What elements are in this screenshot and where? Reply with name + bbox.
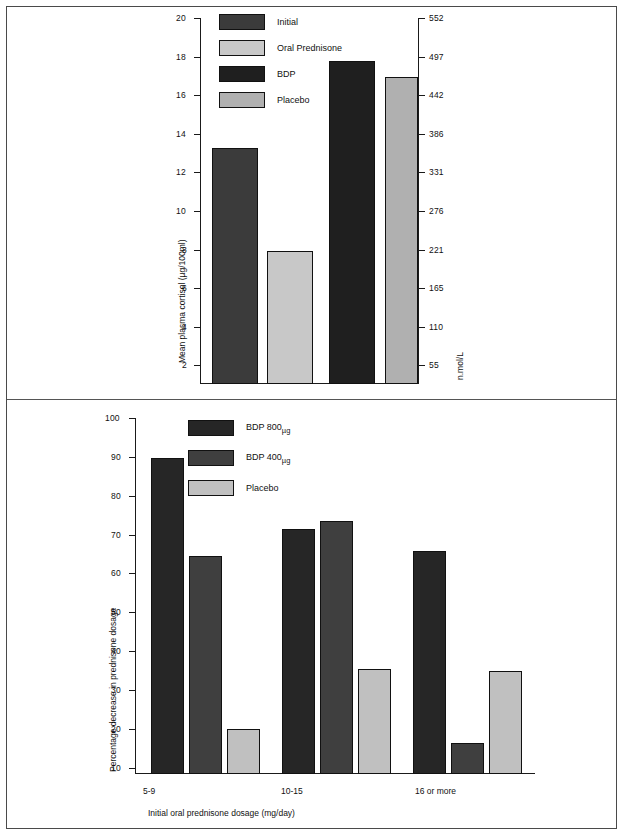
bottom-ticklabel-60: 60 [111,568,121,578]
bottom-x-axis-title: Initial oral prednisone dosage (mg/day) [148,808,295,818]
top-tick-2 [194,365,201,366]
legend-swatch-initial [219,14,265,30]
legend-label-initial: Initial [277,17,298,27]
legend-item-placebo: Placebo [219,92,310,108]
bottom-tick-100 [129,418,136,419]
figure-page: 20 18 16 14 12 10 8 6 4 2 552 497 442 38… [0,0,623,835]
legend-swatch-oral-prednisone [219,40,265,56]
bottom-tick-60 [129,573,136,574]
top-tick-4 [194,327,201,328]
top-right-ticklabel-442: 442 [429,90,444,100]
legend-label-oral-prednisone: Oral Prednisone [277,43,342,53]
top-right-tick-221 [418,250,425,251]
bar-top-oral-prednisone [267,251,313,384]
legend-label-placebo-bottom: Placebo [246,483,279,493]
bar-top-initial [212,148,258,385]
top-y-axis-title: Mean plasma cortisol (µg/100ml) [177,240,187,363]
top-right-ticklabel-55: 55 [429,360,439,370]
top-right-ticklabel-221: 221 [429,245,444,255]
top-left-axis [200,18,201,384]
top-ticklabel-12: 12 [176,167,186,177]
top-right-ticklabel-165: 165 [429,283,444,293]
top-tick-20 [194,18,201,19]
top-right-ticklabel-386: 386 [429,129,444,139]
legend-swatch-bdp-400 [188,450,234,466]
top-tick-10 [194,211,201,212]
legend-label-bdp-800: BDP 800µg [246,422,290,435]
legend-item-bdp-400: BDP 400µg [188,450,290,466]
top-y-axis-right-title: n.mol/L [455,352,465,380]
top-right-ticklabel-331: 331 [429,167,444,177]
legend-label-bdp-400-unit: µg [282,455,291,464]
bottom-tick-10 [129,768,136,769]
xtick-label-10-15: 10-15 [281,786,303,796]
bottom-tick-40 [129,651,136,652]
top-right-tick-55 [418,365,425,366]
bottom-ticklabel-90: 90 [111,452,121,462]
top-right-tick-165 [418,288,425,289]
legend-item-bdp: BDP [219,66,296,82]
legend-swatch-bdp-800 [188,420,234,436]
legend-label-bdp-800-text: BDP 800 [246,422,282,432]
bottom-tick-80 [129,496,136,497]
bar-g3-placebo [489,671,522,774]
bar-g2-bdp800 [282,529,315,775]
top-tick-14 [194,134,201,135]
panel-divider [7,399,616,400]
legend-item-placebo-bottom: Placebo [188,480,279,496]
top-right-ticklabel-497: 497 [429,52,444,62]
bar-g3-bdp400 [451,743,484,774]
legend-item-oral-prednisone: Oral Prednisone [219,40,342,56]
top-right-tick-331 [418,172,425,173]
bottom-tick-90 [129,457,136,458]
bar-g3-bdp800 [413,551,446,774]
top-right-ticklabel-276: 276 [429,206,444,216]
top-right-tick-386 [418,134,425,135]
legend-swatch-placebo [219,92,265,108]
top-right-tick-442 [418,95,425,96]
top-ticklabel-20: 20 [176,13,186,23]
top-right-tick-276 [418,211,425,212]
bar-g1-bdp800 [151,458,184,774]
bottom-ticklabel-70: 70 [111,530,121,540]
bottom-y-axis-title: Percentage decrease in prednisone dosage [108,608,118,772]
bottom-left-axis [135,418,136,774]
top-tick-12 [194,172,201,173]
top-right-ticklabel-552: 552 [429,13,444,23]
top-tick-18 [194,57,201,58]
top-ticklabel-10: 10 [176,206,186,216]
legend-label-bdp-400-text: BDP 400 [246,452,282,462]
legend-label-bdp: BDP [277,69,296,79]
bar-g1-bdp400 [189,556,222,774]
top-right-ticklabel-110: 110 [429,322,443,332]
bar-g1-placebo [227,729,260,775]
bar-top-placebo [385,77,418,384]
top-tick-6 [194,288,201,289]
legend-item-initial: Initial [219,14,298,30]
legend-label-bdp-800-unit: µg [282,425,291,434]
top-ticklabel-16: 16 [176,90,186,100]
bottom-tick-20 [129,729,136,730]
top-ticklabel-14: 14 [176,129,186,139]
top-ticklabel-18: 18 [176,52,186,62]
bottom-tick-70 [129,535,136,536]
top-tick-16 [194,95,201,96]
top-tick-8 [194,250,201,251]
bar-top-bdp [329,61,375,384]
legend-label-bdp-400: BDP 400µg [246,452,290,465]
legend-item-bdp-800: BDP 800µg [188,420,290,436]
bottom-tick-50 [129,612,136,613]
legend-swatch-placebo-bottom [188,480,234,496]
bar-g2-placebo [358,669,391,774]
top-right-tick-110 [418,327,425,328]
xtick-label-5-9: 5-9 [143,786,155,796]
bottom-ticklabel-80: 80 [111,491,121,501]
bar-g2-bdp400 [320,521,353,774]
bottom-tick-30 [129,690,136,691]
top-right-tick-497 [418,57,425,58]
top-right-tick-552 [418,18,425,19]
bottom-ticklabel-100: 100 [105,413,120,423]
xtick-label-16-or-more: 16 or more [415,786,456,796]
legend-swatch-bdp [219,66,265,82]
top-right-axis [418,18,419,384]
